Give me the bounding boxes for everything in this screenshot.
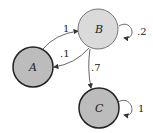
edge-label-b-self: .2 (137, 26, 147, 37)
edge-label-c-self: 1 (138, 103, 144, 114)
edge-label-b-to-c: .7 (91, 62, 101, 73)
node-a-label: A (28, 61, 37, 74)
node-c-label: C (95, 102, 104, 115)
state-diagram: 1 .1 .2 .7 1 B A C (0, 0, 153, 133)
edge-label-a-to-b: 1 (63, 23, 69, 34)
node-b-label: B (94, 23, 103, 36)
edge-b-self-loop (119, 24, 132, 38)
edge-label-b-to-a: .1 (60, 48, 70, 59)
edge-c-self-loop (118, 100, 132, 115)
